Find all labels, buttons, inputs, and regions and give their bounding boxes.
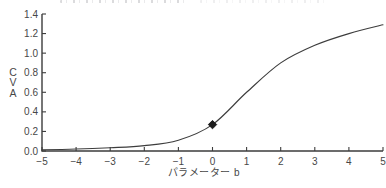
x-tick-label: −4 <box>70 156 82 167</box>
x-tick-label: −1 <box>173 156 185 167</box>
x-tick-label: 0 <box>210 156 216 167</box>
y-tick-label: 0.8 <box>24 67 38 78</box>
scan-artifact-top-right <box>200 0 330 3</box>
y-tick-label: 0.2 <box>24 126 38 137</box>
x-tick-label: −3 <box>104 156 116 167</box>
x-tick-label: 4 <box>346 156 352 167</box>
x-tick-label: 3 <box>312 156 318 167</box>
x-tick-label: 1 <box>244 156 250 167</box>
figure-canvas: 1.41.21.00.80.60.40.20.0543210−1−2−3−4−5… <box>0 0 386 188</box>
axis-lines <box>42 14 383 151</box>
y-tick-label: 0.4 <box>24 106 38 117</box>
x-tick-label: 5 <box>380 156 386 167</box>
y-axis-label-letter-a: A <box>9 87 16 99</box>
y-tick-label: 1.4 <box>24 9 38 20</box>
cva-vs-parameter-b-chart: 1.41.21.00.80.60.40.20.0543210−1−2−3−4−5… <box>0 0 386 188</box>
y-tick-label: 1.2 <box>24 28 38 39</box>
y-tick-label: 0.6 <box>24 87 38 98</box>
scan-artifact-top <box>60 0 190 3</box>
x-tick-label: 2 <box>278 156 284 167</box>
x-tick-label: −5 <box>36 156 48 167</box>
y-tick-label: 0.0 <box>24 146 38 157</box>
x-axis-label: パラメーター b <box>168 167 240 178</box>
x-tick-label: −2 <box>139 156 151 167</box>
cva-curve <box>42 25 383 150</box>
y-tick-label: 1.0 <box>24 48 38 59</box>
